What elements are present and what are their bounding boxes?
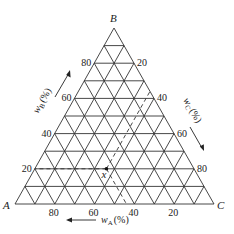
axis-c-arrow <box>190 127 204 151</box>
svg-text:20: 20 <box>137 57 147 68</box>
construction-lines <box>35 91 150 204</box>
svg-text:60: 60 <box>89 207 99 218</box>
point-x-label: x <box>100 168 106 180</box>
svg-text:20: 20 <box>22 163 32 174</box>
svg-text:80: 80 <box>49 207 59 218</box>
svg-text:60: 60 <box>61 92 71 103</box>
vertex-a-label: A <box>2 199 10 211</box>
svg-text:80: 80 <box>197 163 207 174</box>
svg-text:wC(%): wC(%) <box>180 96 205 126</box>
svg-text:20: 20 <box>168 207 178 218</box>
svg-text:60: 60 <box>177 128 187 139</box>
axis-c-title: wC(%) <box>180 96 205 126</box>
ternary-diagram: x A B C 80604020 20406080 20406080 wA(%)… <box>0 0 234 234</box>
arrow-left-icon <box>66 218 72 223</box>
svg-text:80: 80 <box>81 57 91 68</box>
svg-text:40: 40 <box>42 128 52 139</box>
vertex-c-label: C <box>217 199 225 211</box>
axis-b-ticks: 20406080 <box>22 57 91 174</box>
svg-text:40: 40 <box>157 92 167 103</box>
svg-text:wA(%): wA(%) <box>101 214 129 227</box>
grid-lines <box>15 28 214 204</box>
vertex-b-label: B <box>110 12 117 24</box>
svg-text:wB(%): wB(%) <box>30 86 55 116</box>
axis-b-title: wB(%) <box>30 86 55 116</box>
svg-text:40: 40 <box>128 207 138 218</box>
